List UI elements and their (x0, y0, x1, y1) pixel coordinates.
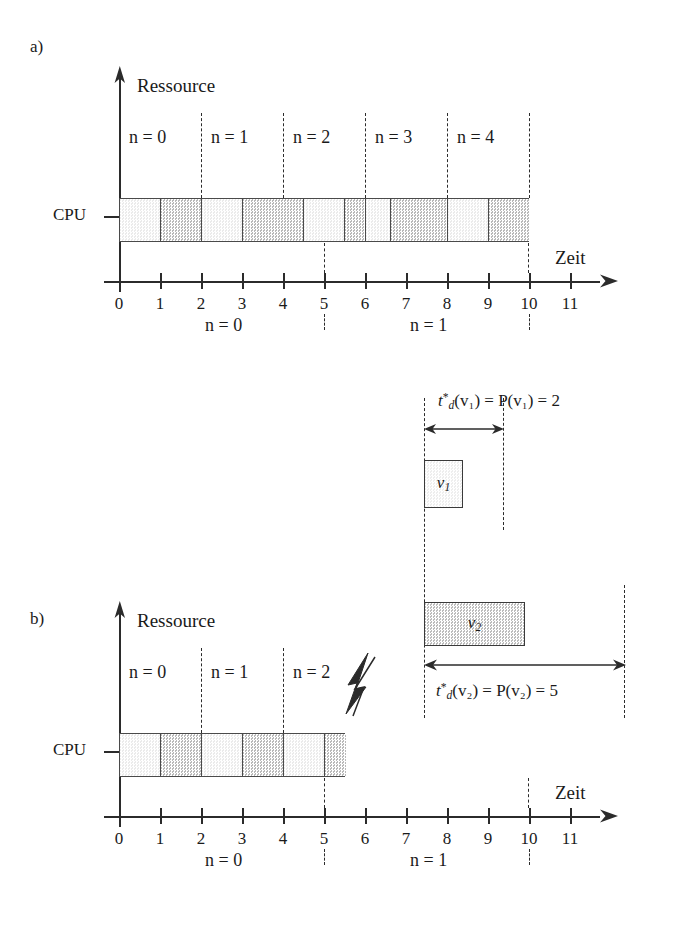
panel-a-cpu-axis-tick (104, 216, 120, 218)
panel-b-tick-0 (119, 805, 121, 827)
task-guide-line-v1-end (503, 398, 504, 530)
panel-a-drop-dash-10 (528, 243, 529, 273)
panel-a-window-label-3: n = 3 (375, 128, 412, 146)
v1-task-label: v1 (437, 473, 450, 494)
panel-a-ticklabel-0: 0 (109, 295, 129, 312)
panel-b-time-axis (104, 816, 600, 818)
panel-b-ticklabel-11: 11 (560, 830, 580, 847)
panel-a-tick-9 (488, 273, 490, 289)
panel-b-cpu-bar (119, 733, 345, 777)
panel-a-cell-9 (489, 199, 530, 241)
panel-b-drop-dash-5 (324, 778, 325, 808)
v2-task-label: v2 (468, 613, 481, 634)
panel-a-ticklabel-4: 4 (273, 295, 293, 312)
v2-formula-body: (v₂) = P(v₂) = 5 (452, 681, 558, 700)
panel-a-ticklabel-7: 7 (396, 295, 416, 312)
panel-a-cell-0 (120, 199, 161, 241)
v2-duration-formula: t*d(v₂) = P(v₂) = 5 (436, 682, 558, 702)
panel-a-tick-5 (324, 273, 326, 289)
panel-b-cpu-axis-tick (104, 751, 120, 753)
panel-a-ticklabel-6: 6 (355, 295, 375, 312)
task-guide-line-v2-end (624, 585, 625, 718)
panel-a-below-label-1: n = 1 (410, 316, 447, 334)
panel-b-tick-4 (283, 808, 285, 824)
panel-a-time-label: Zeit (555, 248, 586, 267)
panel-b-ticklabel-10: 10 (519, 830, 539, 847)
panel-a-below-dash-10 (529, 314, 530, 330)
panel-b-tick-6 (365, 808, 367, 824)
panel-b-ticklabel-5: 5 (314, 830, 334, 847)
panel-a-ticklabel-1: 1 (150, 295, 170, 312)
panel-a-tick-2 (201, 273, 203, 289)
v1-task-box: v1 (424, 460, 463, 508)
panel-a-window-label-0: n = 0 (129, 128, 166, 146)
panel-a-ticklabel-9: 9 (478, 295, 498, 312)
panel-b-tick-7 (406, 808, 408, 824)
panel-b-resource-axis (119, 613, 121, 813)
panel-a-divider-8 (447, 113, 448, 198)
panel-a-cell-4 (304, 199, 345, 241)
panel-b-below-label-0: n = 0 (205, 851, 242, 869)
panel-b-window-label-2: n = 2 (293, 663, 330, 681)
panel-b-tick-9 (488, 808, 490, 824)
panel-b-below-dash-10 (529, 849, 530, 865)
panel-b-ticklabel-1: 1 (150, 830, 170, 847)
panel-b-cell-1 (161, 734, 202, 776)
panel-a-cell-3 (243, 199, 304, 241)
panel-b-cell-0 (120, 734, 161, 776)
panel-b-divider-2 (201, 648, 202, 733)
panel-a-divider-6 (365, 113, 366, 198)
v1-duration-formula: t*d(v₁) = P(v₁) = 2 (438, 392, 560, 412)
panel-b-tick-5 (324, 808, 326, 824)
panel-a-ticklabel-11: 11 (560, 295, 580, 312)
panel-b-cell-2 (202, 734, 243, 776)
panel-a-divider-10 (529, 113, 530, 198)
panel-b-ticklabel-4: 4 (273, 830, 293, 847)
panel-a-tick-7 (406, 273, 408, 289)
panel-b-below-label-1: n = 1 (410, 851, 447, 869)
panel-a-tick-11 (570, 273, 572, 289)
v1-duration-arrow (423, 421, 507, 437)
panel-b-letter: b) (30, 610, 44, 627)
panel-a-tick-1 (160, 273, 162, 289)
figure-root: a) Ressource n = 0 n = 1 n = 2 n = 3 n =… (0, 0, 688, 932)
v2-task-box: v2 (424, 602, 525, 646)
panel-b-cpu-label: CPU (53, 741, 86, 758)
panel-a-cell-2 (202, 199, 243, 241)
panel-b-resource-arrowhead (112, 601, 132, 623)
panel-b-drop-dash-10 (528, 778, 529, 808)
panel-a-tick-10 (529, 273, 531, 289)
panel-b-ticklabel-9: 9 (478, 830, 498, 847)
panel-a-window-label-4: n = 4 (457, 128, 494, 146)
panel-b-cell-3 (243, 734, 284, 776)
panel-b-ticklabel-8: 8 (437, 830, 457, 847)
panel-a-letter: a) (30, 38, 43, 55)
panel-a-divider-4 (283, 113, 284, 198)
panel-a-tick-4 (283, 273, 285, 289)
panel-a-cell-1 (161, 199, 202, 241)
panel-a-cpu-label: CPU (53, 206, 86, 223)
panel-a-cell-7 (391, 199, 448, 241)
panel-a-cpu-bar (119, 198, 529, 242)
panel-a-cell-6 (366, 199, 391, 241)
panel-b-tick-10 (529, 808, 531, 824)
panel-a-resource-arrowhead (112, 66, 132, 88)
panel-a-resource-label: Ressource (137, 76, 215, 95)
panel-b-divider-4 (283, 648, 284, 733)
panel-a-time-arrowhead (596, 273, 622, 291)
panel-b-tick-2 (201, 808, 203, 824)
v2-duration-arrow (423, 657, 629, 673)
panel-a-cell-5 (345, 199, 366, 241)
panel-a-tick-3 (242, 273, 244, 289)
panel-a-ticklabel-10: 10 (519, 295, 539, 312)
panel-a-tick-8 (447, 273, 449, 289)
panel-b-below-dash-5 (324, 849, 325, 865)
panel-b-ticklabel-6: 6 (355, 830, 375, 847)
panel-b-resource-label: Ressource (137, 611, 215, 630)
panel-a-ticklabel-3: 3 (232, 295, 252, 312)
panel-b-time-label: Zeit (555, 783, 586, 802)
panel-a-window-label-2: n = 2 (293, 128, 330, 146)
panel-a-cell-8 (448, 199, 489, 241)
panel-b-window-label-1: n = 1 (211, 663, 248, 681)
panel-b-tick-3 (242, 808, 244, 824)
